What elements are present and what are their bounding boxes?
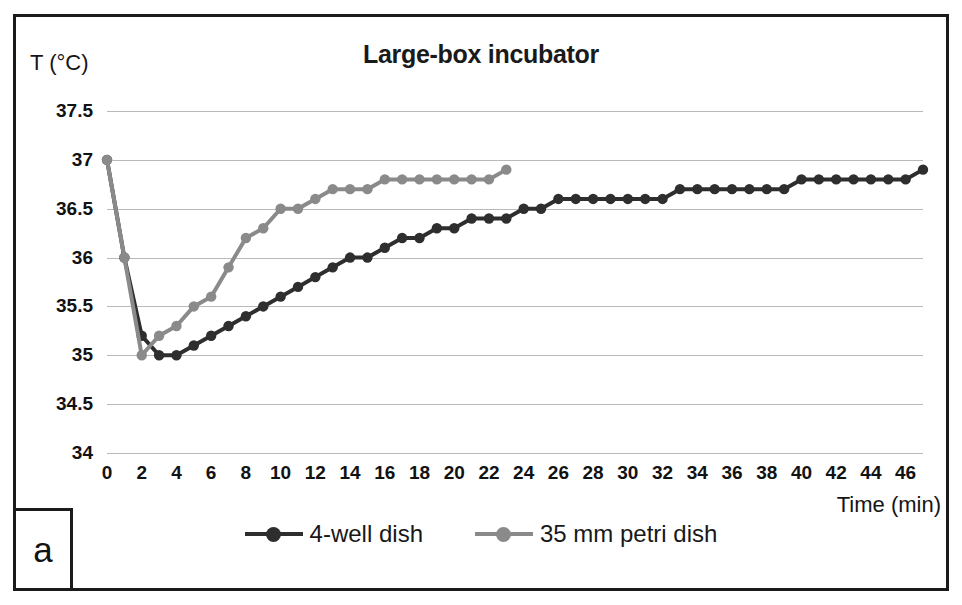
series-marker [501, 164, 511, 174]
x-tick-label: 46 [886, 462, 926, 484]
y-tick-label: 37.5 [29, 100, 93, 122]
series-marker [727, 184, 737, 194]
series-marker [449, 174, 459, 184]
y-axis-ticks: 3434.53535.53636.53737.5 [25, 111, 93, 453]
series-marker [536, 204, 546, 214]
y-axis-label: T (°C) [30, 50, 89, 76]
series-marker [154, 331, 164, 341]
series-marker [588, 194, 598, 204]
series-marker [310, 194, 320, 204]
series-marker [171, 321, 181, 331]
series-marker [571, 194, 581, 204]
chart-title: Large-box incubator [0, 40, 962, 69]
series-marker [848, 174, 858, 184]
series-marker [623, 194, 633, 204]
series-marker [206, 291, 216, 301]
series-marker [275, 291, 285, 301]
series-marker [102, 155, 112, 165]
legend-swatch-icon [245, 526, 303, 542]
y-tick-label: 36.5 [29, 198, 93, 220]
series-marker [189, 301, 199, 311]
x-axis-label: Time (min) [0, 492, 941, 518]
panel-label: a [13, 508, 73, 591]
y-tick-label: 35 [29, 344, 93, 366]
series-marker [119, 252, 129, 262]
series-marker [171, 350, 181, 360]
panel-label-text: a [33, 532, 52, 567]
series-marker [762, 184, 772, 194]
series-marker [466, 174, 476, 184]
y-tick-label: 34 [29, 442, 93, 464]
series-marker [675, 184, 685, 194]
series-marker [831, 174, 841, 184]
legend-swatch-icon [475, 526, 533, 542]
series-marker [779, 184, 789, 194]
series-marker [814, 174, 824, 184]
legend-label: 4-well dish [310, 520, 423, 548]
series-marker [189, 340, 199, 350]
series-marker [345, 184, 355, 194]
series-marker [223, 262, 233, 272]
series-marker [414, 174, 424, 184]
series-marker [293, 204, 303, 214]
series-marker [328, 262, 338, 272]
y-tick-label: 34.5 [29, 393, 93, 415]
series-marker [241, 233, 251, 243]
y-tick-label: 37 [29, 149, 93, 171]
series-marker [657, 194, 667, 204]
y-tick-label: 36 [29, 247, 93, 269]
series-marker [518, 204, 528, 214]
series-line [107, 160, 506, 355]
plot-area [107, 111, 923, 453]
series-marker [258, 223, 268, 233]
series-marker [362, 184, 372, 194]
series-marker [345, 252, 355, 262]
series-marker [328, 184, 338, 194]
series-marker [258, 301, 268, 311]
series-marker [466, 213, 476, 223]
series-marker [883, 174, 893, 184]
series-marker [866, 174, 876, 184]
series-marker [605, 194, 615, 204]
series-marker [310, 272, 320, 282]
series-marker [796, 174, 806, 184]
series-marker [397, 174, 407, 184]
series-marker [241, 311, 251, 321]
series-marker [692, 184, 702, 194]
series-marker [918, 164, 928, 174]
series-marker [414, 233, 424, 243]
series-marker [744, 184, 754, 194]
series-marker [449, 223, 459, 233]
series-marker [293, 282, 303, 292]
series-marker [206, 331, 216, 341]
series-marker [553, 194, 563, 204]
series-marker [154, 350, 164, 360]
y-tick-label: 35.5 [29, 295, 93, 317]
legend-label: 35 mm petri dish [540, 520, 717, 548]
series-marker [362, 252, 372, 262]
series-marker [432, 223, 442, 233]
chart-figure: Large-box incubator T (°C) Time (min) 34… [0, 0, 962, 605]
legend-item[interactable]: 4-well dish [245, 520, 423, 548]
chart-legend: 4-well dish35 mm petri dish [0, 520, 962, 548]
series-marker [484, 174, 494, 184]
series-marker [380, 174, 390, 184]
series-marker [275, 204, 285, 214]
series-marker [501, 213, 511, 223]
series-marker [223, 321, 233, 331]
series-svg [107, 111, 923, 453]
series-marker [709, 184, 719, 194]
x-axis-ticks: 0246810121416182022242628303234363840424… [0, 462, 962, 488]
series-marker [137, 350, 147, 360]
series-marker [432, 174, 442, 184]
gridline [107, 453, 923, 454]
legend-item[interactable]: 35 mm petri dish [475, 520, 717, 548]
series-marker [397, 233, 407, 243]
series-marker [484, 213, 494, 223]
series-marker [900, 174, 910, 184]
series-marker [380, 243, 390, 253]
series-marker [640, 194, 650, 204]
